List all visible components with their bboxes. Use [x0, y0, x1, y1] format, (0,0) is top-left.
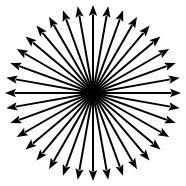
- center-hub: [85, 85, 101, 101]
- starburst-canvas: [0, 0, 186, 186]
- starburst-figure: [0, 0, 186, 186]
